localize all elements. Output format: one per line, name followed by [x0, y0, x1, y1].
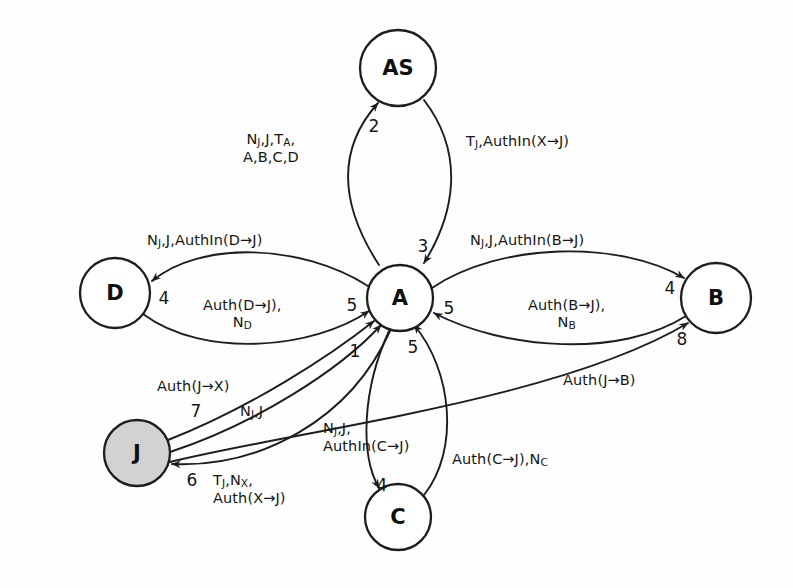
message-label-a-to-d: NJ,J,AuthIn(D→J): [147, 232, 262, 250]
step-number-a-to-d: 4: [159, 288, 170, 308]
message-label-j-to-a-nonce: NJ,J: [240, 403, 263, 421]
message-label-b-to-a: Auth(B→J),NB: [528, 297, 605, 332]
step-number-a-to-b: 4: [665, 278, 676, 298]
node-b-label: B: [708, 286, 724, 310]
message-label-a-to-j: TJ,NX,Auth(X→J): [213, 472, 286, 507]
message-label-a-to-as: NJ,J,TA,A,B,C,D: [243, 131, 299, 166]
message-label-d-to-a: Auth(D→J),ND: [203, 297, 282, 332]
nodes-layer: AS A D B J C: [80, 30, 751, 550]
message-label-c-to-a: Auth(C→J),NC: [452, 451, 548, 469]
step-number-a-to-j: 6: [187, 470, 198, 490]
step-number-b-to-a: 5: [444, 298, 455, 318]
step-number-as-to-a: 3: [418, 236, 429, 256]
step-number-j-to-b: 8: [677, 329, 688, 349]
node-c[interactable]: C: [365, 484, 431, 550]
node-as[interactable]: AS: [360, 30, 436, 106]
message-label-as-to-a: TJ,AuthIn(X→J): [466, 133, 569, 151]
node-d-label: D: [106, 281, 123, 305]
step-number-a-to-as: 2: [369, 116, 380, 136]
node-j-label: J: [131, 441, 141, 465]
message-label-j-to-b: Auth(J→B): [563, 372, 636, 389]
edge-a-to-b: [432, 251, 684, 288]
step-number-c-to-a: 5: [408, 337, 419, 357]
message-label-a-to-b: NJ,J,AuthIn(B→J): [470, 232, 584, 250]
protocol-diagram: AS A D B J C 2: [0, 0, 793, 588]
step-number-j-to-a-auth: 7: [191, 401, 202, 421]
step-number-a-to-c: 4: [377, 475, 388, 495]
node-b[interactable]: B: [681, 263, 751, 333]
node-a[interactable]: A: [367, 265, 433, 331]
node-d[interactable]: D: [80, 258, 150, 328]
step-number-j-to-a-nonce: 1: [350, 341, 361, 361]
message-label-j-to-a-auth: Auth(J→X): [157, 378, 230, 395]
node-a-label: A: [392, 286, 409, 310]
graph-canvas: AS A D B J C 2: [0, 0, 793, 588]
node-as-label: AS: [382, 56, 413, 80]
edge-a-to-d: [152, 252, 368, 286]
node-c-label: C: [390, 505, 405, 529]
node-j[interactable]: J: [104, 420, 170, 486]
message-label-a-to-c: NJ,J,AuthIn(C→J): [323, 420, 409, 455]
step-number-d-to-a: 5: [347, 295, 358, 315]
